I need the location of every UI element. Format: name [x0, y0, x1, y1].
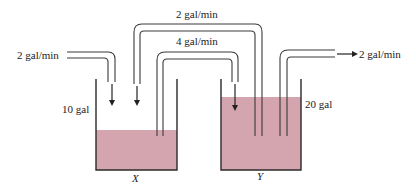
tank-y: [221, 79, 301, 170]
tank-y-liquid: [221, 97, 301, 170]
inflow-pipe-x: [67, 52, 115, 103]
x-to-y-rate-label: 4 gal/min: [176, 35, 218, 47]
outflow-rate-label: 2 gal/min: [359, 48, 401, 60]
inflow-rate-label: 2 gal/min: [17, 49, 59, 61]
tank-x-label: X: [131, 172, 140, 184]
two-tank-diagram: 2 gal/min 2 gal/min 4 gal/min 2 gal/min …: [0, 0, 416, 192]
tank-y-volume-label: 20 gal: [305, 98, 332, 110]
tank-y-label: Y: [257, 170, 265, 182]
y-to-x-rate-label: 2 gal/min: [176, 8, 218, 20]
tank-x-liquid: [96, 130, 177, 170]
tank-x-volume-label: 10 gal: [62, 103, 89, 115]
